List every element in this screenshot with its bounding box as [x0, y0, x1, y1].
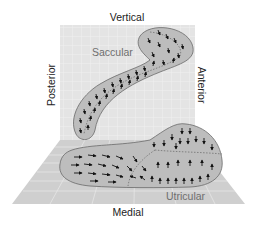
- label-medial: Medial: [113, 206, 144, 218]
- label-anterior: Anterior: [196, 67, 208, 104]
- vestibular-macula-diagram: Vertical Posterior Anterior Medial Saccu…: [0, 0, 258, 227]
- label-saccular: Saccular: [92, 46, 133, 58]
- label-vertical: Vertical: [110, 11, 144, 23]
- label-utricular: Utricular: [166, 190, 206, 202]
- label-posterior: Posterior: [45, 63, 57, 106]
